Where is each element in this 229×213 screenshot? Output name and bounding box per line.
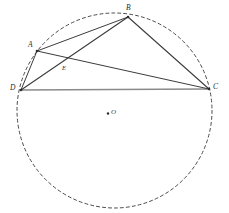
segment-BC	[128, 17, 209, 89]
segment-AB	[37, 17, 128, 51]
vertex-dot-A	[36, 50, 39, 53]
figure-canvas	[0, 0, 229, 213]
vertex-dot-B	[127, 16, 130, 19]
vertex-label-D: D	[10, 84, 15, 92]
vertex-label-C: C	[213, 83, 218, 91]
diagonal-DB	[21, 17, 128, 90]
center-label-O: O	[111, 109, 116, 116]
vertex-label-E: E	[62, 65, 66, 72]
vertex-dot-C	[208, 88, 211, 91]
vertex-label-A: A	[28, 41, 33, 49]
vertex-dot-D	[20, 89, 23, 92]
segment-DC	[21, 89, 209, 90]
geometry-figure: A B C D E O	[0, 0, 229, 213]
vertex-label-B: B	[126, 4, 131, 12]
center-dot-O	[107, 112, 109, 114]
